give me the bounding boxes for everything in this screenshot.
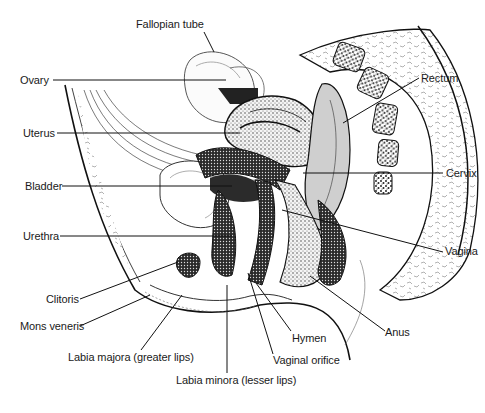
label-vagina: Vagina [445,245,478,257]
label-mons-veneris: Mons veneris [20,320,84,332]
label-rectum: Rectum [421,72,458,84]
label-fallopian-tube: Fallopian tube [136,18,204,30]
label-bladder: Bladder [25,180,62,192]
label-urethra: Urethra [23,230,59,242]
label-clitoris: Clitoris [46,293,79,305]
label-uterus: Uterus [23,127,55,139]
label-labia-minora: Labia minora (lesser lips) [176,374,296,386]
label-hymen: Hymen [292,332,326,344]
label-cervix: Cervix [446,167,477,179]
label-ovary: Ovary [20,74,49,86]
label-vaginal-orifice: Vaginal orifice [273,354,340,366]
label-labia-majora: Labia majora (greater lips) [68,351,194,363]
label-anus: Anus [385,326,410,338]
